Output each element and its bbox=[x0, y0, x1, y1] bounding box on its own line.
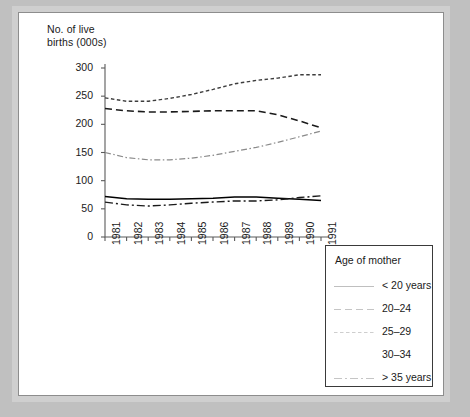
legend-label: 25–29 bbox=[382, 325, 411, 337]
y-tick-label: 300 bbox=[63, 61, 93, 73]
y-tick-label: 50 bbox=[63, 202, 93, 214]
document-page: No. of livebirths (000s) 050100150200250… bbox=[18, 12, 444, 396]
y-tick-label: 250 bbox=[63, 89, 93, 101]
x-tick-label: 1982 bbox=[132, 222, 144, 245]
series-line bbox=[105, 109, 321, 128]
legend-label: 30–34 bbox=[382, 348, 411, 360]
legend-line-sample bbox=[334, 309, 374, 310]
series-line bbox=[105, 75, 321, 101]
y-tick-label: 100 bbox=[63, 174, 93, 186]
x-tick-label: 1987 bbox=[240, 222, 252, 245]
series-line bbox=[105, 131, 321, 160]
axis-lines bbox=[105, 64, 329, 237]
y-tick-label: 0 bbox=[63, 230, 93, 242]
legend-label: > 35 years bbox=[382, 371, 431, 383]
legend-item[interactable]: 25–29 bbox=[326, 322, 434, 344]
legend-title: Age of mother bbox=[335, 254, 401, 266]
legend-line-sample bbox=[334, 355, 374, 356]
y-tick-label: 150 bbox=[63, 146, 93, 158]
x-tick-label: 1990 bbox=[304, 222, 316, 245]
x-tick-label: 1985 bbox=[196, 222, 208, 245]
chart-legend: Age of mother < 20 years20–2425–2930–34>… bbox=[325, 245, 433, 387]
legend-line-sample bbox=[334, 286, 374, 287]
x-tick-label: 1988 bbox=[261, 222, 273, 245]
legend-line-sample bbox=[334, 332, 374, 333]
legend-label: 20–24 bbox=[382, 302, 411, 314]
legend-line-sample bbox=[334, 378, 374, 379]
series-line bbox=[105, 196, 321, 200]
legend-item[interactable]: > 35 years bbox=[326, 368, 434, 390]
legend-item[interactable]: < 20 years bbox=[326, 276, 434, 298]
x-tick-label: 1991 bbox=[326, 222, 338, 245]
x-tick-label: 1989 bbox=[283, 222, 295, 245]
legend-item[interactable]: 20–24 bbox=[326, 299, 434, 321]
legend-item[interactable]: 30–34 bbox=[326, 345, 434, 367]
x-tick-label: 1981 bbox=[110, 222, 122, 245]
x-tick-label: 1983 bbox=[153, 222, 165, 245]
x-tick-label: 1986 bbox=[218, 222, 230, 245]
y-tick-label: 200 bbox=[63, 117, 93, 129]
legend-label: < 20 years bbox=[382, 279, 431, 291]
screenshot-root: No. of livebirths (000s) 050100150200250… bbox=[0, 0, 470, 417]
x-tick-label: 1984 bbox=[175, 222, 187, 245]
chart-figure: No. of livebirths (000s) 050100150200250… bbox=[19, 13, 443, 395]
